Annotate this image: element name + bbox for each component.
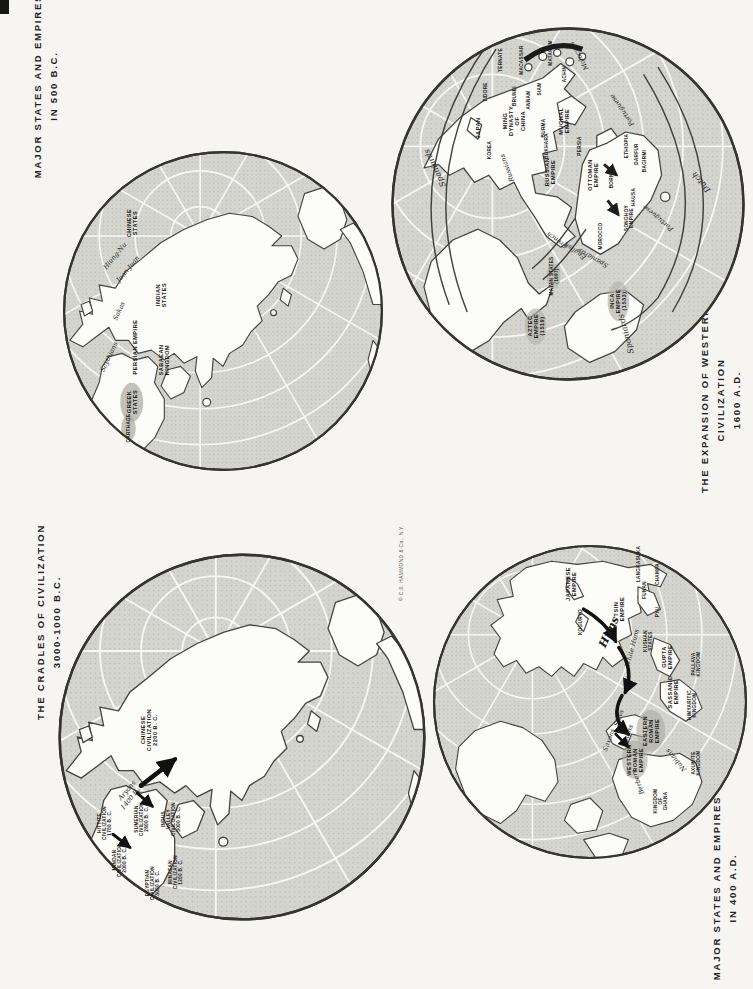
map-label: KINGDOM OF GHANA — [653, 789, 668, 814]
map-label: HIMYARITIC KINGDOM — [687, 690, 697, 720]
map-label: BRUNEI — [512, 86, 517, 106]
map-label: Portuguese — [641, 203, 675, 233]
map-label: MINAEAN CIVILIZATION 1200 B. C. — [167, 855, 182, 889]
map-label: Juan-Juan — [115, 254, 142, 284]
map-label: CHINESE STATES — [126, 209, 138, 237]
map-label: CHINESE CIVILIZATION 2200 B. C. — [140, 708, 158, 750]
map-label: SIAM — [537, 82, 542, 95]
map-label: KOGURYO — [578, 609, 583, 635]
map-label: SUMERIAN CIVILIZATION 2800 B. C. — [134, 802, 149, 836]
map-labels: CHINESE STATESHiung-NuJuan-JuanINDIAN ST… — [60, 148, 386, 474]
map-label: Dutch — [690, 170, 713, 194]
map-label: Spaniards — [616, 313, 635, 355]
map-labels: MATARAMMACASSARTERNATETIDOREMoluccasBRUN… — [388, 24, 748, 384]
map-label: AZTEC EMPIRE (1519) — [527, 314, 545, 338]
map-label: INDUS VALLEY CIVILIZATION 3000 B. C. — [161, 802, 181, 836]
map-label: KUSHAN STATES — [643, 630, 653, 652]
map-label: PERSIA — [576, 137, 581, 156]
map-label: ACHIN — [562, 66, 567, 82]
atlas-page: MAJOR STATES AND EMPIRESIN 500 B.C. CHIN… — [0, 0, 753, 989]
map-title: MAJOR STATES AND EMPIRESIN 500 B.C. — [30, 0, 62, 178]
map-label: AXUMITE KINGDOM — [691, 750, 701, 775]
map-label: PERSIAN EMPIRE — [132, 319, 138, 374]
map-label: MUGHAL EMPIRE — [558, 107, 570, 135]
globe-cradles: CHINESE CIVILIZATION 2200 B. C.Aryans 14… — [55, 550, 429, 924]
map-label: INDIAN STATES — [155, 283, 167, 307]
map-title-line: THE CRADLES OF CIVILIZATION — [33, 524, 49, 720]
map-label: EASTERN ROMAN EMPIRE — [642, 716, 660, 746]
map-label: RUSSIAN EMPIRE — [544, 157, 556, 186]
map-label: JAPANESE EMPIRE — [565, 567, 577, 601]
map-label: Goths — [621, 724, 635, 745]
map-labels: CHINESE CIVILIZATION 2200 B. C.Aryans 14… — [55, 550, 429, 924]
map-title-line: MAJOR STATES AND EMPIRES — [30, 0, 46, 178]
map-label: KOREA — [486, 141, 491, 159]
map-label: GREEK STATES — [126, 390, 138, 414]
map-label: HAUSA — [630, 188, 635, 206]
map-label: BAGIRMI — [641, 150, 646, 172]
map-label: ANNAM — [526, 90, 531, 109]
map-label: BORNU — [609, 169, 614, 188]
map-label: BUKHARA — [544, 133, 549, 159]
globe-1600ad: MATARAMMACASSARTERNATETIDOREMoluccasBRUN… — [388, 24, 748, 384]
map-label: FUNAN — [642, 581, 647, 599]
map-label: DARFUR — [634, 143, 639, 165]
map-label: Scythians — [98, 340, 119, 372]
map-label: MING DYNASTY OF CHINA — [502, 106, 526, 136]
map-label: Russians — [498, 153, 516, 183]
map-label: CHAMPA — [655, 563, 660, 585]
map-label: Huns — [596, 614, 622, 649]
copyright: © C.S. HAMMOND & Co., N.Y. — [399, 525, 404, 601]
map-label: PYU — [655, 607, 660, 618]
map-label: SABAEAN KINGDOM — [158, 344, 170, 375]
map-label: OTTOMAN EMPIRE — [587, 159, 599, 191]
map-label: HITTITE CIVILIZATION 1700 B. C. — [96, 806, 111, 840]
map-label: JAPAN — [475, 118, 481, 139]
map-label: GUPTA EMPIRE — [661, 645, 673, 669]
map-label: TERNATE — [497, 48, 502, 72]
map-label: LANGKASUKA — [636, 546, 641, 582]
map-label: French — [545, 230, 569, 250]
map-label: Moluccas — [568, 41, 591, 72]
map-label: MOROCCO — [598, 223, 603, 250]
map-label: Slavs — [612, 708, 625, 727]
globe-400ad: JAPANESE EMPIREKOGURYOTSIN EMPIREPYUFUNA… — [430, 542, 750, 862]
map-label: TIDORE — [483, 83, 488, 103]
map-labels: JAPANESE EMPIREKOGURYOTSIN EMPIREPYUFUNA… — [430, 542, 750, 862]
map-label: MINOAN CIVILIZATION 2000 B. C. — [111, 843, 126, 877]
map-label: CARTHAGE — [126, 414, 131, 443]
map-label: Nubians — [664, 746, 688, 772]
map-label: MATARAM — [548, 40, 553, 66]
map-label: ETHIOPIA — [623, 134, 628, 159]
map-label: SASSANID EMPIRE — [667, 676, 679, 709]
map-label: EGYPTIAN CIVILIZATION 3000 B. C. — [145, 866, 160, 900]
map-label: Saxons — [601, 728, 617, 753]
map-label: Sakas — [111, 300, 126, 321]
scan-edge-mark — [0, 0, 9, 14]
globe-500bc: CHINESE STATESHiung-NuJuan-JuanINDIAN ST… — [60, 148, 386, 474]
map-label: PALLAVA KINGDOM — [691, 651, 701, 676]
map-label: MACASSAR — [519, 45, 524, 74]
map-label: SONGHOY EMPIRE — [624, 205, 634, 231]
map-label: White Huns — [623, 628, 641, 668]
map-label: Portuguese — [608, 93, 636, 128]
map-label: MAYAN STATES (1697) — [549, 256, 559, 295]
map-label: Spaniards — [422, 148, 447, 189]
map-label: INCA EMPIRE (1533) — [609, 289, 627, 313]
